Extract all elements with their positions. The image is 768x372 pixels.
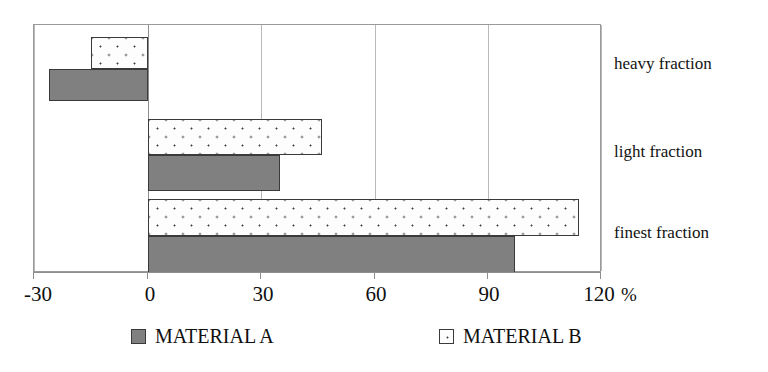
tick-mark-60 [374, 272, 375, 279]
tick-mark--30 [33, 272, 34, 279]
bar-material-b-finest-fraction [148, 199, 579, 236]
bar-material-b-light-fraction [148, 119, 322, 155]
category-label-light-fraction: light fraction [614, 143, 702, 160]
bar-material-b-heavy-fraction [91, 37, 148, 69]
legend-item-material-b: MATERIAL B [439, 326, 582, 346]
legend-label-material-b: MATERIAL B [463, 326, 582, 346]
gridline--30 [34, 25, 35, 271]
tick-label-60: 60 [366, 284, 387, 305]
category-label-heavy-fraction: heavy fraction [614, 55, 712, 72]
legend-swatch-material-a-icon [131, 329, 146, 344]
plot-area [33, 24, 601, 272]
legend-item-material-a: MATERIAL A [131, 326, 274, 346]
tick-mark-90 [487, 272, 488, 279]
legend-swatch-material-b-icon [439, 329, 454, 344]
gridline-120 [601, 25, 602, 271]
bar-material-a-heavy-fraction [49, 69, 148, 101]
bar-chart: heavy fraction light fraction finest fra… [0, 0, 768, 372]
x-axis-line [33, 272, 601, 273]
bar-material-a-finest-fraction [148, 236, 515, 273]
legend-label-material-a: MATERIAL A [155, 326, 274, 346]
x-axis-unit-label: % [621, 285, 637, 304]
tick-mark-30 [260, 272, 261, 279]
tick-label--30: -30 [24, 284, 52, 305]
tick-label-90: 90 [479, 284, 500, 305]
tick-mark-120 [600, 272, 601, 279]
tick-label-120: 120 [583, 284, 615, 305]
tick-label-0: 0 [145, 284, 156, 305]
category-label-finest-fraction: finest fraction [614, 224, 709, 241]
tick-mark-0 [147, 272, 148, 279]
bar-material-a-light-fraction [148, 155, 280, 191]
tick-label-30: 30 [253, 284, 274, 305]
legend: MATERIAL A MATERIAL B [0, 326, 768, 360]
